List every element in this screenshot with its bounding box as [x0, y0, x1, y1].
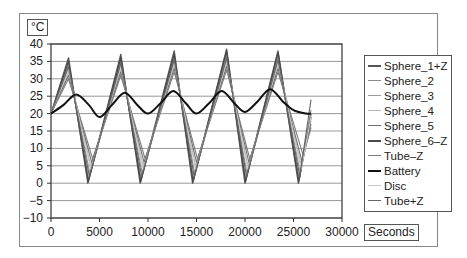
legend-swatch-icon [368, 95, 381, 96]
y-tick-label: 0 [36, 176, 43, 190]
x-axis-unit-label: Seconds [364, 224, 419, 241]
y-tick-label: 20 [30, 107, 44, 121]
legend-swatch-icon [368, 155, 381, 156]
legend-item: Battery [365, 163, 451, 178]
y-axis-unit-label: °C [27, 19, 48, 36]
chart-legend: Sphere_1+ZSphere_2Sphere_3Sphere_4Sphere… [364, 55, 452, 212]
legend-item: Sphere_2 [365, 73, 451, 88]
y-tick-label: 5 [36, 159, 43, 173]
y-tick-label: 35 [30, 54, 44, 68]
x-tick-label: 25000 [277, 225, 311, 239]
legend-label: Sphere_2 [384, 75, 434, 87]
legend-item: Sphere_6–Z [365, 133, 451, 148]
legend-item: Sphere_3 [365, 88, 451, 103]
legend-label: Sphere_1+Z [384, 60, 448, 72]
x-tick-label: 5000 [86, 225, 113, 239]
legend-item: Tube–Z [365, 148, 451, 163]
legend-item: Sphere_5 [365, 118, 451, 133]
legend-item: Disc [365, 178, 451, 193]
legend-swatch-icon [368, 170, 381, 172]
y-tick-label: 15 [30, 124, 44, 138]
legend-label: Tube–Z [384, 150, 423, 162]
y-tick-label: 40 [30, 37, 44, 51]
legend-swatch-icon [368, 125, 381, 126]
legend-swatch-icon [368, 65, 381, 67]
legend-swatch-icon [368, 185, 381, 186]
y-tick-label: 10 [30, 141, 44, 155]
legend-item: Sphere_1+Z [365, 58, 451, 73]
legend-label: Sphere_6–Z [384, 135, 447, 147]
x-tick-label: 0 [48, 225, 55, 239]
legend-label: Sphere_5 [384, 120, 434, 132]
legend-swatch-icon [368, 200, 381, 201]
x-tick-label: 20000 [228, 225, 262, 239]
y-tick-label: 25 [30, 89, 44, 103]
y-tick-label: −5 [29, 194, 43, 208]
x-tick-label: 15000 [180, 225, 214, 239]
x-tick-label: 30000 [325, 225, 359, 239]
legend-item: Tube+Z [365, 193, 451, 208]
legend-label: Battery [384, 165, 420, 177]
x-tick-label: 10000 [131, 225, 165, 239]
legend-swatch-icon [368, 80, 381, 81]
y-tick-label: 30 [30, 72, 44, 86]
legend-swatch-icon [368, 140, 381, 142]
legend-swatch-icon [368, 110, 381, 111]
legend-item: Sphere_4 [365, 103, 451, 118]
legend-label: Sphere_3 [384, 90, 434, 102]
legend-label: Sphere_4 [384, 105, 434, 117]
legend-label: Tube+Z [384, 195, 424, 207]
y-tick-label: −10 [23, 211, 44, 225]
legend-label: Disc [384, 180, 406, 192]
